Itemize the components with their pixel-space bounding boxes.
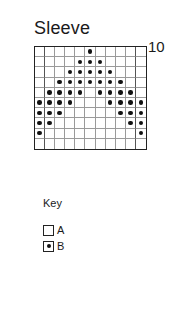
chart-cell-dot <box>96 57 106 67</box>
chart-cell-dot <box>106 67 116 77</box>
chart-cell-dot <box>55 88 65 98</box>
chart-cell-dot <box>55 78 65 88</box>
chart-cell-dot <box>126 108 136 118</box>
chart-cell-dot <box>96 88 106 98</box>
chart-cell-empty <box>75 139 85 149</box>
chart-cell-dot <box>116 88 126 98</box>
chart-cell-empty <box>116 129 126 139</box>
chart-cell-empty <box>106 118 116 128</box>
chart-cell-dot <box>85 47 95 57</box>
chart-cell-dot <box>45 98 55 108</box>
chart-cell-dot <box>136 129 146 139</box>
chart-cell-empty <box>136 67 146 77</box>
chart-cell-empty <box>45 129 55 139</box>
chart-cell-dot <box>35 118 45 128</box>
chart-cell-empty <box>75 98 85 108</box>
chart-cell-empty <box>85 108 95 118</box>
chart-cell-empty <box>35 57 45 67</box>
chart-cell-empty <box>96 47 106 57</box>
chart-cell-empty <box>55 139 65 149</box>
chart-cell-empty <box>136 57 146 67</box>
chart-cell-empty <box>75 129 85 139</box>
chart-cell-empty <box>126 129 136 139</box>
chart-cell-empty <box>126 139 136 149</box>
chart-cell-dot <box>126 118 136 128</box>
chart-cell-empty <box>75 108 85 118</box>
chart-cell-empty <box>106 129 116 139</box>
chart-cell-dot <box>85 67 95 77</box>
chart-cell-dot <box>65 88 75 98</box>
chart-cell-empty <box>136 78 146 88</box>
chart-cell-dot <box>75 88 85 98</box>
chart-cell-dot <box>55 108 65 118</box>
chart-cell-dot <box>35 108 45 118</box>
chart-cell-empty <box>55 47 65 57</box>
chart-cell-empty <box>35 67 45 77</box>
chart-cell-empty <box>45 67 55 77</box>
chart-cell-empty <box>85 139 95 149</box>
chart-cell-dot <box>35 98 45 108</box>
chart-cell-empty <box>45 139 55 149</box>
chart-cell-empty <box>55 129 65 139</box>
chart-cell-dot <box>65 98 75 108</box>
chart-cell-empty <box>126 57 136 67</box>
chart-cell-empty <box>35 139 45 149</box>
row-number-label: 10 <box>148 38 165 56</box>
chart-cell-empty <box>65 57 75 67</box>
chart-cell-dot <box>45 118 55 128</box>
chart-cell-empty <box>55 118 65 128</box>
chart-cell-empty <box>96 139 106 149</box>
chart-cell-dot <box>85 57 95 67</box>
chart-cell-dot <box>106 98 116 108</box>
chart-cell-empty <box>85 98 95 108</box>
chart-title: Sleeve <box>34 17 90 39</box>
chart-cell-dot <box>65 67 75 77</box>
chart-cell-dot <box>126 98 136 108</box>
chart-cell-dot <box>65 78 75 88</box>
chart-cell-empty <box>96 98 106 108</box>
chart-cell-dot <box>75 67 85 77</box>
chart-cell-empty <box>96 108 106 118</box>
chart-cell-empty <box>116 139 126 149</box>
chart-cell-dot <box>96 78 106 88</box>
chart-cell-dot <box>116 78 126 88</box>
chart-cell-dot <box>55 98 65 108</box>
chart-cell-empty <box>45 57 55 67</box>
chart-cell-dot <box>85 78 95 88</box>
chart-cell-empty <box>75 47 85 57</box>
dot-square-icon <box>43 241 54 252</box>
chart-cell-empty <box>75 118 85 128</box>
chart-cell-empty <box>126 78 136 88</box>
chart-cell-empty <box>65 108 75 118</box>
chart-cell-empty <box>55 67 65 77</box>
chart-cell-empty <box>116 118 126 128</box>
chart-cell-dot <box>45 108 55 118</box>
chart-cell-empty <box>85 129 95 139</box>
chart-cell-empty <box>96 129 106 139</box>
chart-cell-empty <box>106 47 116 57</box>
chart-cell-empty <box>136 88 146 98</box>
key-item-b: B <box>43 240 64 252</box>
chart-cell-empty <box>45 47 55 57</box>
chart-cell-empty <box>106 57 116 67</box>
chart-cell-dot <box>106 88 116 98</box>
chart-cell-empty <box>106 139 116 149</box>
chart-cell-empty <box>126 47 136 57</box>
key-title: Key <box>43 196 62 210</box>
chart-cell-empty <box>96 118 106 128</box>
key-item-a: A <box>43 224 64 236</box>
chart-cell-dot <box>96 67 106 77</box>
chart-cell-dot <box>116 108 126 118</box>
chart-cell-empty <box>126 67 136 77</box>
empty-square-icon <box>43 225 54 236</box>
chart-cell-empty <box>65 129 75 139</box>
chart-cell-empty <box>35 47 45 57</box>
chart-cell-empty <box>116 47 126 57</box>
chart-cell-dot <box>35 129 45 139</box>
chart-cell-empty <box>45 78 55 88</box>
chart-cell-dot <box>116 98 126 108</box>
chart-cell-dot <box>136 98 146 108</box>
chart-cell-dot <box>136 118 146 128</box>
chart-cell-empty <box>55 57 65 67</box>
key-label: B <box>57 240 64 252</box>
